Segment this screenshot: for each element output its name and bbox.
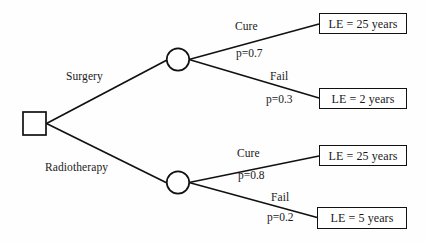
chance-node-radiotherapy[interactable] bbox=[167, 171, 189, 193]
outcome-value-radiotherapy-cure: LE = 25 years bbox=[328, 150, 397, 162]
decision-tree-diagram: Surgery Radiotherapy Cure p=0.7 Fail p=0… bbox=[0, 0, 425, 242]
outcome-box-radiotherapy-fail[interactable]: LE = 5 years bbox=[317, 207, 407, 229]
probability-label-surgery-fail: p=0.3 bbox=[266, 93, 293, 105]
outcome-box-surgery-cure[interactable]: LE = 25 years bbox=[319, 13, 407, 34]
branch-line-radiotherapy bbox=[47, 124, 168, 184]
outcome-value-surgery-fail: LE = 2 years bbox=[332, 93, 395, 105]
outcome-label-radiotherapy-fail: Fail bbox=[271, 191, 289, 203]
probability-label-surgery-cure: p=0.7 bbox=[236, 47, 263, 59]
probability-label-radiotherapy-cure: p=0.8 bbox=[238, 169, 265, 181]
outcome-box-radiotherapy-cure[interactable]: LE = 25 years bbox=[319, 145, 407, 166]
decision-node-square[interactable] bbox=[23, 112, 46, 135]
outcome-value-radiotherapy-fail: LE = 5 years bbox=[331, 212, 394, 224]
probability-label-radiotherapy-fail: p=0.2 bbox=[267, 211, 294, 223]
outcome-label-surgery-fail: Fail bbox=[270, 70, 288, 82]
branch-line-surgery bbox=[47, 60, 168, 124]
branch-label-radiotherapy: Radiotherapy bbox=[45, 161, 108, 173]
outcome-line-surgery-fail bbox=[189, 60, 319, 99]
outcome-line-radiotherapy-fail bbox=[189, 183, 319, 219]
chance-node-surgery[interactable] bbox=[167, 48, 189, 70]
outcome-value-surgery-cure: LE = 25 years bbox=[328, 18, 397, 30]
branch-label-surgery: Surgery bbox=[66, 70, 103, 82]
tree-connector-lines bbox=[0, 0, 425, 242]
outcome-box-surgery-fail[interactable]: LE = 2 years bbox=[319, 88, 407, 109]
outcome-label-radiotherapy-cure: Cure bbox=[237, 147, 260, 159]
outcome-label-surgery-cure: Cure bbox=[235, 20, 258, 32]
